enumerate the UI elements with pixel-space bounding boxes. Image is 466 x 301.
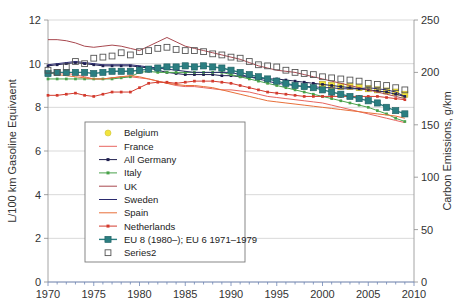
y2-axis-tick-label: 150 xyxy=(421,119,439,131)
legend-item-label: France xyxy=(124,141,154,152)
data-marker xyxy=(376,95,379,98)
data-marker xyxy=(47,94,50,97)
data-marker xyxy=(248,86,251,89)
y2-axis-tick-label: 100 xyxy=(421,171,439,183)
data-marker xyxy=(109,68,115,74)
legend-marker-swatch xyxy=(107,225,110,228)
data-marker xyxy=(374,100,380,106)
data-marker xyxy=(321,95,324,98)
data-marker xyxy=(191,64,197,70)
data-marker xyxy=(138,86,141,89)
x-axis-tick-label: 1990 xyxy=(219,288,243,300)
data-marker xyxy=(82,69,88,75)
legend-item-label: Spain xyxy=(124,207,148,218)
legend-marker-swatch xyxy=(107,158,110,161)
legend-item-label: All Germany xyxy=(124,154,177,165)
data-marker xyxy=(312,82,315,85)
data-marker xyxy=(319,87,325,93)
data-marker xyxy=(221,74,224,77)
data-marker xyxy=(72,69,78,75)
data-marker xyxy=(365,98,371,104)
data-marker xyxy=(129,91,132,94)
data-marker xyxy=(275,92,278,95)
data-marker xyxy=(266,91,269,94)
data-marker xyxy=(347,93,353,99)
chart-root: 0246810120501001502002501970197519801985… xyxy=(0,0,466,301)
legend-item-label: UK xyxy=(124,181,138,192)
data-marker xyxy=(394,97,397,100)
x-axis-tick-label: 1975 xyxy=(82,288,106,300)
y-axis-tick-label: 10 xyxy=(29,58,41,70)
data-marker xyxy=(47,78,50,81)
data-marker xyxy=(358,104,361,107)
data-marker xyxy=(303,81,306,84)
data-marker xyxy=(394,93,397,96)
data-marker xyxy=(120,91,123,94)
data-marker xyxy=(385,96,388,99)
data-marker xyxy=(175,71,178,74)
legend-marker-swatch xyxy=(107,171,110,174)
data-marker xyxy=(383,104,389,110)
data-marker xyxy=(155,65,161,71)
data-marker xyxy=(200,63,206,69)
y-axis-tick-label: 12 xyxy=(29,14,41,26)
data-marker xyxy=(92,95,95,98)
data-marker xyxy=(376,109,379,112)
data-marker xyxy=(54,69,60,75)
data-marker xyxy=(404,120,407,123)
legend-item-label: Belgium xyxy=(124,127,158,138)
legend-marker-swatch xyxy=(105,130,111,136)
data-marker xyxy=(275,84,278,87)
data-marker xyxy=(329,89,335,95)
data-marker xyxy=(339,85,342,88)
data-marker xyxy=(255,74,261,80)
data-marker xyxy=(294,80,297,83)
data-marker xyxy=(310,85,316,91)
data-marker xyxy=(349,102,352,105)
data-marker xyxy=(385,91,388,94)
data-marker xyxy=(393,108,399,114)
x-axis-tick-label: 1995 xyxy=(265,288,289,300)
x-axis-tick-label: 2005 xyxy=(356,288,380,300)
y2-axis-tick-label: 50 xyxy=(421,224,433,236)
data-marker xyxy=(237,69,243,75)
data-marker xyxy=(166,81,169,84)
data-marker xyxy=(285,93,288,96)
data-marker xyxy=(230,73,233,76)
data-marker xyxy=(56,78,59,81)
data-marker xyxy=(301,83,307,89)
data-marker xyxy=(173,64,179,70)
data-marker xyxy=(303,91,306,94)
data-marker xyxy=(239,75,242,78)
data-marker xyxy=(102,93,105,96)
data-marker xyxy=(136,67,142,73)
fuel-economy-chart: 0246810120501001502002501970197519801985… xyxy=(0,0,466,301)
legend-item-label: Italy xyxy=(124,167,142,178)
x-axis-tick-label: 2000 xyxy=(310,288,334,300)
data-marker xyxy=(164,64,170,70)
data-marker xyxy=(219,65,225,71)
data-marker xyxy=(166,71,169,74)
data-marker xyxy=(338,91,344,97)
y-axis-tick-label: 2 xyxy=(35,232,41,244)
data-marker xyxy=(111,91,114,94)
x-axis-tick-label: 1980 xyxy=(127,288,151,300)
y2-axis-tick-label: 200 xyxy=(421,66,439,78)
data-marker xyxy=(266,82,269,85)
data-marker xyxy=(65,78,68,81)
data-marker xyxy=(175,82,178,85)
data-marker xyxy=(239,84,242,87)
data-marker xyxy=(257,80,260,83)
data-marker xyxy=(283,80,289,86)
y-axis-tick-label: 6 xyxy=(35,145,41,157)
data-marker xyxy=(339,99,342,102)
data-marker xyxy=(100,69,106,75)
y2-axis-tick-label: 0 xyxy=(421,276,427,288)
data-marker xyxy=(330,84,333,87)
data-marker xyxy=(74,92,77,95)
y-axis-tick-label: 8 xyxy=(35,101,41,113)
data-marker xyxy=(367,106,370,109)
data-marker xyxy=(65,93,68,96)
data-marker xyxy=(210,64,216,70)
y-axis-title: L/100 km Gasoline Equivaent xyxy=(6,79,18,223)
